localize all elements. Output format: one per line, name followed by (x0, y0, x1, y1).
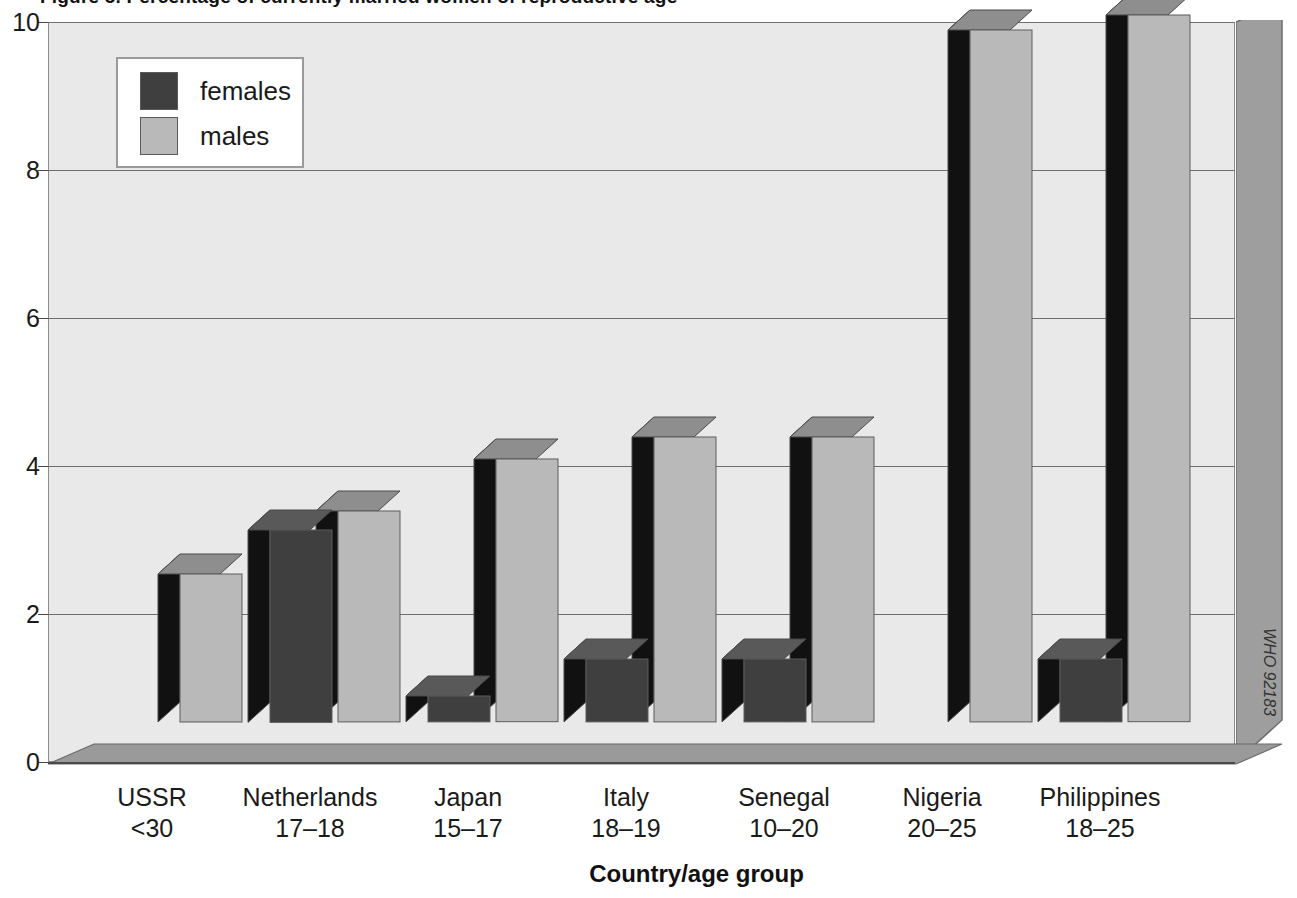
y-axis-label-4: 4 (0, 454, 40, 479)
x-axis-title: Country/age group (0, 860, 1297, 888)
bar-front-face (428, 696, 490, 722)
bar-netherlands-females (248, 510, 332, 722)
x-label-nigeria: Nigeria20–25 (858, 782, 1026, 844)
bar-front-face (338, 511, 400, 722)
y-axis-label-10: 10 (0, 10, 40, 35)
plot-area: 10 8 6 4 2 0 females males (48, 22, 1253, 767)
bar-top-face (790, 417, 874, 437)
bar-front-face (586, 659, 648, 722)
chart-title-cutoff: Figure 5. Percentage of currently marrie… (40, 0, 740, 8)
x-label-country: Nigeria (902, 783, 981, 811)
x-label-age: 15–17 (384, 813, 552, 844)
x-label-netherlands: Netherlands17–18 (226, 782, 394, 844)
x-label-country: Japan (434, 783, 502, 811)
x-axis-title-text: Country/age group (589, 860, 804, 888)
x-label-japan: Japan15–17 (384, 782, 552, 844)
bar-top-face (948, 10, 1032, 30)
x-label-age: <30 (68, 813, 236, 844)
bar-front-face (970, 30, 1032, 722)
bar-italy-females (564, 639, 648, 722)
who-credit-text: WHO 92183 (1260, 628, 1278, 716)
y-axis-label-6: 6 (0, 306, 40, 331)
x-label-age: 10–20 (700, 813, 868, 844)
bar-front-face (744, 659, 806, 722)
legend-swatch-males-icon (140, 117, 178, 155)
bar-top-face (1038, 639, 1122, 659)
x-label-country: Netherlands (243, 783, 378, 811)
bar-top-face (316, 491, 400, 511)
bar-top-face (722, 639, 806, 659)
bar-front-face (270, 530, 332, 722)
x-label-age: 18–19 (542, 813, 710, 844)
axis-baseline (48, 762, 1235, 764)
bar-top-face (474, 439, 558, 459)
bar-philippines-males (1106, 0, 1190, 722)
x-label-country: Italy (603, 783, 649, 811)
bar-nigeria-males (948, 10, 1032, 722)
x-label-senegal: Senegal10–20 (700, 782, 868, 844)
x-label-age: 17–18 (226, 813, 394, 844)
bar-top-face (248, 510, 332, 530)
bar-top-face (1106, 0, 1190, 15)
x-label-age: 20–25 (858, 813, 1026, 844)
bar-front-face (1128, 15, 1190, 722)
bar-chart: Figure 5. Percentage of currently marrie… (0, 0, 1297, 898)
bar-philippines-females (1038, 639, 1122, 722)
bar-front-face (812, 437, 874, 722)
x-label-ussr: USSR<30 (68, 782, 236, 844)
bar-front-face (654, 437, 716, 722)
legend-swatch-females-icon (140, 72, 178, 110)
bar-front-face (180, 574, 242, 722)
bar-front-face (496, 459, 558, 722)
bar-top-face (406, 676, 490, 696)
legend-entry-females: females (140, 71, 291, 111)
x-label-italy: Italy18–19 (542, 782, 710, 844)
bar-side-face (948, 10, 970, 722)
bar-side-face (158, 554, 180, 722)
bar-side-face (248, 510, 270, 722)
y-axis-label-2: 2 (0, 602, 40, 627)
legend-entry-males: males (140, 116, 269, 156)
bar-japan-females (406, 676, 490, 722)
x-label-country: Philippines (1040, 783, 1161, 811)
x-label-philippines: Philippines18–25 (1016, 782, 1184, 844)
x-axis-category-labels: USSR<30Netherlands17–18Japan15–17Italy18… (48, 782, 1238, 852)
legend-label-males: males (200, 123, 269, 149)
y-axis-label-0: 0 (0, 750, 40, 775)
bar-senegal-females (722, 639, 806, 722)
bar-ussr-males (158, 554, 242, 722)
bar-top-face (158, 554, 242, 574)
who-credit: WHO 92183 (1258, 628, 1282, 778)
x-label-country: USSR (117, 783, 186, 811)
x-label-age: 18–25 (1016, 813, 1184, 844)
y-axis-label-8: 8 (0, 158, 40, 183)
bar-top-face (632, 417, 716, 437)
x-label-country: Senegal (738, 783, 830, 811)
legend: females males (116, 57, 304, 168)
bar-side-face (1106, 0, 1128, 722)
bar-top-face (564, 639, 648, 659)
bar-front-face (1060, 659, 1122, 722)
legend-label-females: females (200, 78, 291, 104)
